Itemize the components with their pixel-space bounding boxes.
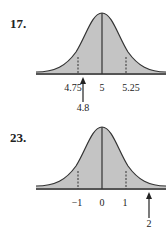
mean-label: 0 [100,197,105,208]
right-label: 1 [123,197,128,208]
mean-label: 5 [100,82,105,93]
figure-number: 17. [10,16,26,32]
arrow-label: 4.8 [77,102,90,113]
arrow-label: 2 [147,218,152,229]
arrow-up-icon [146,192,152,199]
figure-number: 23. [10,130,26,146]
figure-17: 17. 4.75 5 5.25 4.8 [0,0,166,115]
right-label: 5.25 [122,82,140,93]
left-label: −1 [72,197,83,208]
left-label: 4.75 [64,82,82,93]
figure-23: 23. −1 0 1 2 [0,115,166,229]
